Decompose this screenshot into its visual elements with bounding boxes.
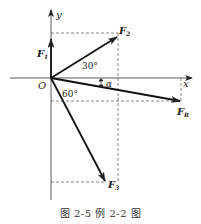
vector-f2	[51, 37, 117, 78]
construction-lines	[51, 33, 181, 183]
y-axis-label: y	[55, 9, 62, 20]
f3-label: F3	[107, 179, 119, 191]
alpha-indicator	[99, 79, 103, 88]
figure-caption: 图 2-5 例 2-2 图	[0, 205, 201, 220]
f1-label: F1	[36, 48, 48, 60]
force-diagram: y x O F1 F2 F3 FR 30° 60° α	[0, 0, 201, 224]
vector-f3	[51, 78, 105, 181]
angle-30-label: 30°	[82, 61, 98, 71]
force-vectors	[51, 37, 180, 181]
x-axis-label: x	[183, 78, 189, 89]
angle-60-label: 60°	[62, 89, 78, 99]
alpha-label: α	[106, 79, 112, 89]
fr-label: FR	[176, 106, 189, 118]
f2-label: F2	[118, 25, 130, 37]
origin-label: O	[38, 80, 46, 91]
